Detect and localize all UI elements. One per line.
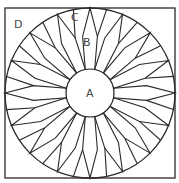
label-c: C	[71, 11, 79, 24]
quilt-diagram: A B C D	[0, 0, 179, 183]
label-b: B	[83, 36, 91, 49]
label-d: D	[14, 18, 22, 31]
label-a: A	[86, 87, 94, 100]
